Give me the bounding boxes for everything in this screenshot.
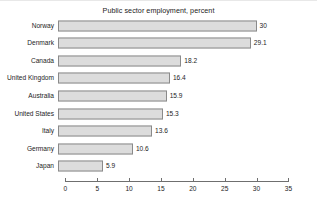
x-axis-tick — [65, 178, 66, 182]
x-axis-tick — [225, 178, 226, 182]
bar-value-label: 30 — [260, 22, 267, 29]
x-axis-tick-label: 10 — [125, 186, 132, 193]
x-axis-tick — [288, 178, 289, 182]
bar-row: Norway30 — [58, 17, 289, 35]
bar-row: United States15.3 — [58, 105, 289, 123]
category-label: Germany — [27, 145, 54, 152]
x-axis-tick — [97, 178, 98, 182]
bar-value-label: 15.3 — [166, 110, 179, 117]
bar-value-label: 10.6 — [136, 145, 149, 152]
bar-row: Germany10.6 — [58, 140, 289, 158]
bar — [58, 20, 257, 31]
x-axis: 05101520253035 — [58, 181, 289, 211]
bar-value-label: 16.4 — [173, 75, 186, 82]
bar — [58, 143, 133, 154]
bar-row: Canada18.2 — [58, 52, 289, 70]
category-label: United States — [14, 110, 54, 117]
x-axis-line — [65, 181, 288, 182]
bar — [58, 38, 251, 49]
x-axis-tick-label: 5 — [95, 186, 99, 193]
x-axis-tick-label: 35 — [285, 186, 292, 193]
category-label: Canada — [31, 58, 54, 65]
bar-row: Denmark29.1 — [58, 35, 289, 53]
category-label: Denmark — [27, 40, 54, 47]
bar-value-label: 5.9 — [106, 163, 115, 170]
x-axis-tick-label: 15 — [157, 186, 164, 193]
x-axis-tick — [193, 178, 194, 182]
x-axis-tick-label: 25 — [221, 186, 228, 193]
bar-row: Italy13.6 — [58, 122, 289, 140]
bar-value-label: 18.2 — [184, 58, 197, 65]
x-axis-tick — [129, 178, 130, 182]
plot-area: Norway30Denmark29.1Canada18.2United King… — [58, 17, 289, 175]
bar-value-label: 29.1 — [254, 40, 267, 47]
bar-chart-figure: Public sector employment, percent Norway… — [0, 0, 317, 214]
x-axis-tick — [257, 178, 258, 182]
category-label: Italy — [42, 128, 54, 135]
bar-row: Japan5.9 — [58, 157, 289, 175]
bar — [58, 126, 152, 137]
category-label: Japan — [36, 163, 54, 170]
bar — [58, 90, 167, 101]
x-axis-tick-label: 30 — [253, 186, 260, 193]
category-label: United Kingdom — [7, 75, 54, 82]
figure-top-rule — [0, 0, 317, 1]
bar-row: Australia15.9 — [58, 87, 289, 105]
bar — [58, 108, 163, 119]
bar — [58, 55, 181, 66]
category-label: Norway — [32, 22, 54, 29]
bar-value-label: 13.6 — [155, 128, 168, 135]
x-axis-tick-label: 20 — [189, 186, 196, 193]
bar-row-list: Norway30Denmark29.1Canada18.2United King… — [58, 17, 289, 175]
bar-value-label: 15.9 — [170, 93, 183, 100]
bar — [58, 161, 103, 172]
bar — [58, 73, 170, 84]
chart-title: Public sector employment, percent — [0, 6, 317, 15]
x-axis-tick — [161, 178, 162, 182]
x-axis-tick-label: 0 — [64, 186, 68, 193]
category-label: Australia — [28, 93, 54, 100]
bar-row: United Kingdom16.4 — [58, 70, 289, 88]
